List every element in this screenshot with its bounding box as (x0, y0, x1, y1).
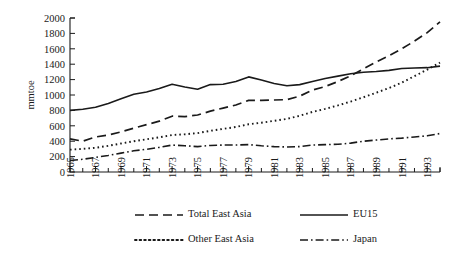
x-tick-label: 1977 (218, 157, 229, 178)
x-tick-label: 1979 (243, 157, 254, 178)
legend-label-total-east-asia: Total East Asia (188, 208, 252, 219)
y-tick-label: 1400 (44, 59, 65, 70)
x-tick-label: 1983 (294, 157, 305, 178)
x-tick-label: 1967 (90, 157, 101, 178)
y-tick-label: 400 (49, 136, 65, 147)
y-tick-label: 800 (49, 105, 65, 116)
series-line-other-east-asia (70, 63, 440, 150)
chart-container: 0200400600800100012001400160018002000 19… (0, 0, 462, 262)
y-tick-label: 600 (49, 121, 65, 132)
y-axis-title: mmtoe (25, 80, 36, 110)
chart-legend: Total East AsiaEU15Other East AsiaJapan (135, 208, 378, 244)
axis-frame (70, 18, 440, 172)
y-tick-label: 1200 (44, 74, 65, 85)
y-tick-label: 1600 (44, 44, 65, 55)
y-tick-label: 2000 (44, 13, 65, 24)
y-tick-label: 1000 (44, 90, 65, 101)
x-tick-label: 1993 (422, 157, 433, 178)
x-tick-label: 1973 (167, 157, 178, 178)
legend-label-japan: Japan (353, 233, 378, 244)
series-lines (70, 22, 440, 161)
series-line-eu15 (70, 66, 440, 110)
axes (70, 18, 440, 172)
x-tick-label: 1975 (192, 157, 203, 178)
y-axis-label: mmtoe (25, 80, 36, 110)
legend-label-eu15: EU15 (353, 208, 378, 219)
x-tick-label: 1969 (116, 157, 127, 178)
y-tick-label: 200 (49, 151, 65, 162)
series-line-total-east-asia (70, 22, 440, 141)
line-chart: 0200400600800100012001400160018002000 19… (0, 0, 462, 262)
x-axis-ticks: 1965196719691971197319751977197919811983… (65, 157, 440, 178)
legend-label-other-east-asia: Other East Asia (188, 233, 254, 244)
x-tick-label: 1971 (141, 157, 152, 178)
x-tick-label: 1991 (397, 157, 408, 178)
x-tick-label: 1985 (320, 157, 331, 178)
series-line-japan (70, 134, 440, 161)
x-tick-label: 1987 (345, 157, 356, 178)
x-tick-label: 1989 (371, 157, 382, 178)
x-tick-label: 1981 (269, 157, 280, 178)
y-tick-label: 1800 (44, 28, 65, 39)
